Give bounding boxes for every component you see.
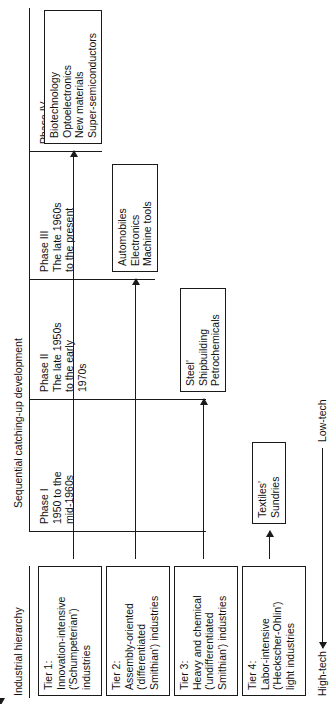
phase-2-name: Phase II: [38, 353, 50, 392]
tier-3-connector-arrow: [203, 399, 204, 559]
tier-1-industries-box: Biotechnology Optoelectronics New materi…: [44, 10, 102, 144]
phase-divider-1: [30, 531, 206, 532]
tier-4-industries-box: Textiles' Sundries: [252, 442, 286, 524]
phase-3-name: Phase III: [38, 231, 50, 272]
tier-1-label-box: Tier 1: Innovation-intensive ('Schumpete…: [38, 566, 102, 696]
right-header-label: Sequential catching-up development: [12, 338, 24, 508]
tech-gradient-axis: [322, 448, 323, 648]
figure-stage: Industrial hierarchy Sequential catching…: [0, 0, 336, 704]
tier-1-connector-arrow: [73, 151, 74, 559]
tier-4-label-box: Tier 4: Labor-intensive ('Heckscher-Ohli…: [242, 566, 306, 696]
tier-4-connector-arrow: [269, 531, 270, 559]
catching-up-development-diagram: Industrial hierarchy Sequential catching…: [0, 0, 336, 704]
phase-1-name: Phase I: [38, 488, 50, 524]
phase-divider-2: [30, 399, 206, 400]
tier-3-label-box: Tier 3: Heavy and chemical ('undifferent…: [174, 566, 238, 696]
low-tech-label: Low-tech: [316, 399, 328, 442]
tier-3-industries-box: Steel' Shipbuilding Petrochemicals: [180, 288, 226, 392]
tier-2-industries-box: Automobiles Electronics Machine tools: [112, 164, 158, 272]
left-header-label: Industrial hierarchy: [12, 607, 24, 696]
phase-divider-4: [30, 151, 102, 152]
left-header-rule: [29, 566, 30, 698]
high-tech-label: High-tech: [316, 651, 328, 696]
right-header-rule: [29, 8, 30, 532]
phase-2-period: The late 1950s to the early 1970s: [51, 323, 88, 392]
tier-2-connector-arrow: [135, 279, 136, 559]
tier-2-label-box: Tier 2: Assembly-oriented ('differentiat…: [106, 566, 170, 696]
